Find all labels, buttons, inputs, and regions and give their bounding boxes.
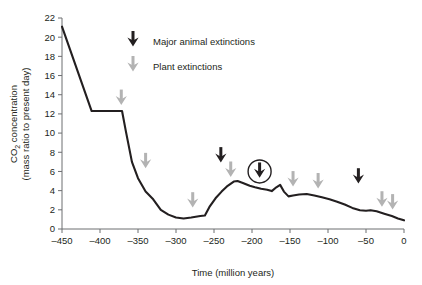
legend-label: Major animal extinctions (153, 36, 255, 47)
co2-extinctions-chart: –450–400–350–300–250–200–150–100–500 024… (0, 0, 422, 285)
x-axis-title: Time (million years) (192, 267, 275, 278)
y-tick-label: 20 (44, 32, 55, 43)
svg-text:CO2 concentration: CO2 concentration (8, 85, 21, 163)
y-tick-label: 14 (44, 89, 55, 100)
x-tick-label: –450 (51, 235, 72, 246)
y-tick-label: 12 (44, 108, 55, 119)
x-tick-label: –50 (358, 235, 374, 246)
y-tick-label: 2 (50, 204, 55, 215)
x-tick-label: –200 (241, 235, 262, 246)
x-tick-label: –300 (165, 235, 186, 246)
legend-label: Plant extinctions (153, 61, 222, 72)
y-tick-label: 8 (50, 147, 55, 158)
y-tick-label: 22 (44, 12, 55, 23)
x-tick-label: –100 (317, 235, 338, 246)
svg-text:Time (million years): Time (million years) (192, 267, 275, 278)
y-tick-label: 4 (50, 185, 55, 196)
x-tick-label: –150 (279, 235, 300, 246)
y-tick-label: 0 (50, 223, 55, 234)
x-tick-label: –350 (127, 235, 148, 246)
y-tick-label: 18 (44, 51, 55, 62)
svg-text:(mass ratio to present day): (mass ratio to present day) (20, 68, 31, 181)
x-tick-label: 0 (401, 235, 406, 246)
y-tick-label: 6 (50, 166, 55, 177)
x-tick-label: –250 (203, 235, 224, 246)
y-tick-label: 10 (44, 127, 55, 138)
chart-canvas: –450–400–350–300–250–200–150–100–500 024… (0, 0, 422, 285)
y-tick-label: 16 (44, 70, 55, 81)
x-tick-label: –400 (89, 235, 110, 246)
